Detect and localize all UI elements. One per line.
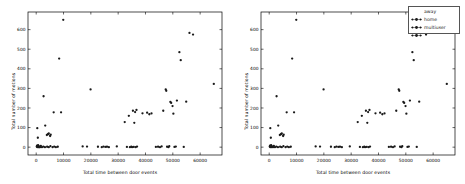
plot-area-right: 0100002000030000400005000060000010020030… xyxy=(250,12,455,163)
y-tick-label: 0 xyxy=(23,145,26,150)
y-tick-label: 500 xyxy=(250,47,259,52)
data-point xyxy=(366,122,368,124)
data-point xyxy=(146,112,148,114)
y-tick-label: 200 xyxy=(250,106,259,111)
x-tick-label: 60000 xyxy=(193,158,207,163)
data-point xyxy=(367,111,369,113)
y-tick-label: 100 xyxy=(250,125,259,130)
data-point xyxy=(108,146,110,148)
data-point xyxy=(42,95,44,97)
data-point xyxy=(393,145,395,147)
data-point xyxy=(365,110,367,112)
data-point xyxy=(165,90,167,92)
legend-label-multiuser: multiuser xyxy=(424,25,446,30)
data-point xyxy=(183,146,185,148)
data-point xyxy=(322,88,324,90)
data-point xyxy=(395,110,397,112)
scatter-panel-left: 0100002000030000400005000060000010020030… xyxy=(0,0,232,184)
y-axis-label-left: Total number of motions xyxy=(11,73,16,130)
data-point xyxy=(170,102,172,104)
data-point xyxy=(48,132,50,134)
data-point xyxy=(411,51,413,53)
data-point xyxy=(97,146,99,148)
data-point xyxy=(37,137,39,139)
data-point xyxy=(175,145,177,147)
data-point xyxy=(390,146,392,148)
data-point xyxy=(446,83,448,85)
data-point xyxy=(134,111,136,113)
data-point xyxy=(160,145,162,147)
x-tick-label: 30000 xyxy=(344,158,358,163)
data-point xyxy=(172,113,174,115)
data-point xyxy=(335,145,337,147)
x-tick-label: 20000 xyxy=(317,158,331,163)
data-point xyxy=(178,51,180,53)
data-point xyxy=(339,146,341,148)
y-tick-label: 300 xyxy=(250,86,259,91)
data-point xyxy=(368,109,370,111)
data-point xyxy=(349,145,351,147)
legend-label-home: home xyxy=(424,17,437,22)
data-point xyxy=(357,121,359,123)
x-tick-label: 0 xyxy=(35,158,38,163)
data-point xyxy=(133,122,135,124)
data-point xyxy=(341,146,343,148)
data-point xyxy=(379,112,381,114)
data-point xyxy=(128,115,130,117)
data-point xyxy=(155,146,157,148)
data-point xyxy=(330,146,332,148)
data-point xyxy=(270,137,272,139)
data-point xyxy=(162,110,164,112)
data-point xyxy=(148,113,150,115)
data-point xyxy=(89,88,91,90)
y-tick-label: 100 xyxy=(17,125,26,130)
x-tick-label: 20000 xyxy=(84,158,98,163)
data-point xyxy=(157,146,159,148)
data-point xyxy=(180,59,182,61)
data-point xyxy=(50,133,52,135)
data-point xyxy=(176,99,178,101)
data-point xyxy=(418,101,420,103)
legend-item-home[interactable]: home xyxy=(409,15,459,23)
legend-label-away: away xyxy=(424,9,436,14)
x-tick-label: 10000 xyxy=(57,158,71,163)
y-tick-label: 400 xyxy=(17,66,26,71)
y-tick-label: 400 xyxy=(250,66,259,71)
x-tick-label: 60000 xyxy=(426,158,440,163)
x-tick-label: 40000 xyxy=(372,158,386,163)
data-point xyxy=(55,146,57,148)
data-point xyxy=(388,146,390,148)
data-point xyxy=(141,112,143,114)
data-point xyxy=(44,124,46,126)
data-point xyxy=(295,19,297,21)
y-tick-label: 200 xyxy=(17,106,26,111)
data-point xyxy=(58,57,60,59)
legend-item-away[interactable]: away xyxy=(409,7,459,15)
data-point xyxy=(171,105,173,107)
data-point xyxy=(416,146,418,148)
data-point xyxy=(38,146,40,148)
data-point xyxy=(286,111,288,113)
y-tick-label: 600 xyxy=(250,27,259,32)
data-point xyxy=(291,57,293,59)
legend-item-multiuser[interactable]: multiuser xyxy=(409,23,459,31)
x-tick-label: 30000 xyxy=(111,158,125,163)
data-point xyxy=(405,113,407,115)
data-point xyxy=(398,90,400,92)
data-point xyxy=(213,83,215,85)
x-tick-label: 10000 xyxy=(290,158,304,163)
data-point xyxy=(401,145,403,147)
plot-area-left: 0100002000030000400005000060000010020030… xyxy=(17,12,222,163)
x-tick-label: 40000 xyxy=(139,158,153,163)
data-point xyxy=(404,105,406,107)
data-point xyxy=(57,146,59,148)
data-point xyxy=(62,19,64,21)
y-tick-label: 500 xyxy=(17,47,26,52)
data-point xyxy=(315,145,317,147)
data-point xyxy=(403,102,405,104)
data-point xyxy=(413,59,415,61)
data-point xyxy=(36,127,38,129)
y-tick-label: 600 xyxy=(17,27,26,32)
data-point xyxy=(192,33,194,35)
plot-svg-left: 0100002000030000400005000060000010020030… xyxy=(0,0,232,184)
